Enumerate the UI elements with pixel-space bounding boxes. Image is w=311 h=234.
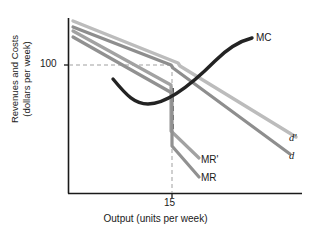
curve-label-d-prime: d'	[289, 133, 297, 144]
y-axis-label-line-1: Revenues and Costs	[9, 9, 21, 149]
curve-mr	[73, 37, 199, 177]
y-tick-label-100: 100	[40, 59, 57, 69]
curve-label-mr: MR	[201, 173, 217, 183]
curve-label-d: d	[289, 151, 294, 162]
y-axis-label-line-2: (dollars per week)	[21, 9, 33, 149]
x-axis-label: Output (units per week)	[0, 214, 311, 224]
curve-label-mc: MC	[256, 33, 272, 43]
y-axis-label: Revenues and Costs (dollars per week)	[9, 9, 43, 149]
curve-label-mr-prime: MR'	[201, 155, 218, 165]
chart-figure: Revenues and Costs (dollars per week) Ou…	[0, 0, 311, 234]
x-tick-label-15: 15	[164, 198, 175, 208]
